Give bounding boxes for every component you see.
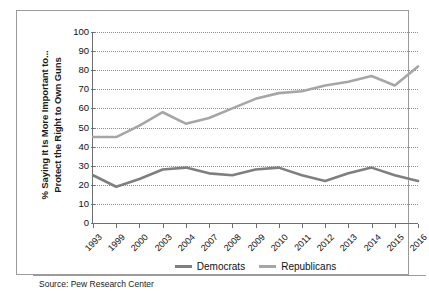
y-tick-mark bbox=[91, 147, 95, 148]
y-tick-label: 0 bbox=[65, 218, 89, 228]
x-tick-mark bbox=[348, 224, 349, 228]
legend-item-republicans[interactable]: Republicans bbox=[259, 261, 336, 272]
y-tick-mark bbox=[91, 185, 95, 186]
y-tick-mark bbox=[91, 128, 95, 129]
y-tick-mark bbox=[91, 108, 95, 109]
y-tick-label: 50 bbox=[65, 123, 89, 133]
y-tick-label: 30 bbox=[65, 161, 89, 171]
y-tick-mark bbox=[91, 204, 95, 205]
x-tick-mark bbox=[139, 224, 140, 228]
series-line-republicans bbox=[93, 66, 418, 137]
x-tick-mark bbox=[395, 224, 396, 228]
y-axis-tick-labels: 0102030405060708090100 bbox=[63, 32, 89, 223]
y-tick-label: 100 bbox=[65, 27, 89, 37]
y-tick-label: 80 bbox=[65, 65, 89, 75]
x-axis-tick-labels: 1993199920002003200420072008200920102011… bbox=[93, 224, 418, 266]
x-tick-mark bbox=[418, 224, 419, 228]
y-tick-mark bbox=[91, 32, 95, 33]
x-tick-mark bbox=[163, 224, 164, 228]
y-tick-label: 90 bbox=[65, 46, 89, 56]
y-tick-label: 40 bbox=[65, 142, 89, 152]
y-tick-mark bbox=[91, 223, 95, 224]
source-row: Source: Pew Research Center bbox=[33, 275, 426, 291]
x-tick-mark bbox=[256, 224, 257, 228]
series-line-democrats bbox=[93, 168, 418, 187]
y-tick-mark bbox=[91, 89, 95, 90]
x-tick-mark bbox=[93, 224, 94, 228]
legend-swatch-icon bbox=[259, 265, 276, 268]
y-axis-title-line-1: % Saying It Is More Important to... bbox=[39, 50, 52, 199]
x-tick-mark bbox=[209, 224, 210, 228]
x-tick-mark bbox=[279, 224, 280, 228]
series-lines bbox=[93, 32, 418, 223]
x-tick-mark bbox=[186, 224, 187, 228]
legend-item-democrats[interactable]: Democrats bbox=[175, 261, 245, 272]
x-tick-mark bbox=[372, 224, 373, 228]
y-tick-label: 20 bbox=[65, 180, 89, 190]
x-tick-mark bbox=[116, 224, 117, 228]
y-tick-label: 10 bbox=[65, 199, 89, 209]
legend-label: Republicans bbox=[281, 261, 336, 272]
y-tick-mark bbox=[91, 51, 95, 52]
x-tick-mark bbox=[232, 224, 233, 228]
x-tick-mark bbox=[302, 224, 303, 228]
y-tick-label: 70 bbox=[65, 84, 89, 94]
chart-legend: DemocratsRepublicans bbox=[93, 261, 418, 272]
x-tick-mark bbox=[325, 224, 326, 228]
y-tick-mark bbox=[91, 70, 95, 71]
chart-panel: % Saying It Is More Important to... Prot… bbox=[16, 10, 409, 275]
legend-swatch-icon bbox=[175, 265, 192, 268]
y-tick-mark bbox=[91, 166, 95, 167]
y-tick-label: 60 bbox=[65, 103, 89, 113]
source-note: Source: Pew Research Center bbox=[39, 279, 154, 289]
plot-area bbox=[93, 32, 418, 223]
legend-label: Democrats bbox=[197, 261, 245, 272]
